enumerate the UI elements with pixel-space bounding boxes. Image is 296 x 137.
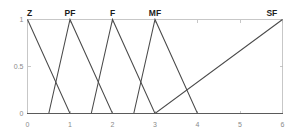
x-axis-tick-labels: 0123456 <box>26 121 285 128</box>
series-label-sf: SF <box>266 8 277 18</box>
y-tick-label: 1 <box>20 16 24 23</box>
x-axis-ticks <box>28 20 283 114</box>
series-label-z: Z <box>27 8 32 18</box>
y-tick-label: 0 <box>20 110 24 117</box>
y-axis-tick-labels: 00.51 <box>14 16 24 117</box>
mf-curve-pf <box>28 20 283 114</box>
membership-function-plot: 0123456 00.51 ZPFFMFSF <box>0 0 296 137</box>
mf-curve-sf <box>28 20 283 114</box>
x-tick-label: 5 <box>238 121 242 128</box>
x-tick-label: 1 <box>68 121 72 128</box>
mf-curve-z <box>28 20 283 114</box>
plot-frame <box>28 20 283 114</box>
chart-figure: 0123456 00.51 ZPFFMFSF <box>0 0 296 137</box>
x-tick-label: 6 <box>281 121 285 128</box>
y-tick-label: 0.5 <box>14 63 24 70</box>
x-tick-label: 4 <box>196 121 200 128</box>
series-label-mf: MF <box>149 8 161 18</box>
membership-curves <box>28 20 283 114</box>
x-tick-label: 2 <box>111 121 115 128</box>
x-tick-label: 0 <box>26 121 30 128</box>
series-label-f: F <box>110 8 115 18</box>
series-label-pf: PF <box>65 8 76 18</box>
x-tick-label: 3 <box>153 121 157 128</box>
y-axis-ticks <box>28 20 283 114</box>
mf-curve-mf <box>28 20 283 114</box>
series-labels: ZPFFMFSF <box>27 8 277 18</box>
mf-curve-f <box>28 20 283 114</box>
